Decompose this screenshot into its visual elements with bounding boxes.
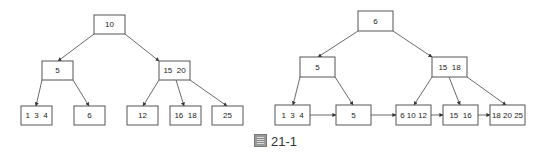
tree-diagram: 10515 201 3 461216 1825 6515 181 3 456 1… [0,0,548,153]
b-tree-left: 10515 201 3 461216 1825 [21,15,243,125]
bplustree-edge-arrow [318,31,358,57]
btree-edge-arrow [58,34,94,61]
figure-caption: 21-1 [254,134,297,149]
node-keys: 15 20 [163,66,186,75]
bplustree-node-r-a: 5 [300,57,335,77]
node-keys: 25 [223,111,232,120]
bplustree-edge-arrow [335,77,353,105]
node-keys: 16 18 [174,111,197,120]
node-keys: 5 [55,66,60,75]
btree-node-l-leaf2: 6 [74,106,105,125]
node-keys: 12 [138,111,147,120]
bplustree-edge-arrow [414,77,432,105]
node-keys: 1 3 4 [25,111,48,120]
btree-node-l-root: 10 [94,15,125,34]
bplustree-edge-arrow [449,77,460,105]
node-keys: 1 3 4 [281,111,304,120]
figure-label-glyph-icon [254,134,267,147]
bplustree-node-r-leaf3: 6 10 12 [396,105,431,125]
node-keys: 18 20 25 [492,111,524,120]
btree-edge-arrow [190,80,227,106]
btree-node-l-leaf3: 12 [127,106,158,125]
node-keys: 6 [87,111,92,120]
bplustree-node-r-b: 15 18 [432,57,467,77]
bplustree-node-r-leaf4: 15 16 [443,105,478,125]
btree-edge-arrow [176,80,184,106]
node-keys: 5 [351,111,356,120]
bplustree-node-r-leaf2: 5 [336,105,371,125]
bplus-tree-right: 6515 181 3 456 10 1215 1618 20 25 [275,11,525,125]
btree-node-l-b: 15 20 [159,61,190,80]
btree-node-l-leaf1: 1 3 4 [21,106,52,125]
bplustree-edge-arrow [393,31,432,57]
figure-number: 21-1 [271,134,297,149]
btree-edge-arrow [73,80,89,106]
btree-node-l-a: 5 [42,61,73,80]
node-keys: 10 [105,20,114,29]
btree-node-l-leaf4: 16 18 [170,106,201,125]
btree-node-l-leaf5: 25 [212,106,243,125]
node-keys: 15 18 [438,63,461,72]
btree-edge-arrow [143,80,159,106]
node-keys: 6 10 12 [400,111,427,120]
btree-edge-arrow [36,80,42,106]
bplustree-edge-arrow [293,77,300,105]
bplustree-node-r-root: 6 [358,11,393,31]
btree-edge-arrow [125,34,159,61]
node-keys: 6 [373,17,378,26]
bplustree-node-r-leaf1: 1 3 4 [275,105,310,125]
node-keys: 5 [315,63,320,72]
bplustree-edge-arrow [467,77,506,105]
node-keys: 15 16 [449,111,472,120]
bplustree-node-r-leaf5: 18 20 25 [490,105,525,125]
